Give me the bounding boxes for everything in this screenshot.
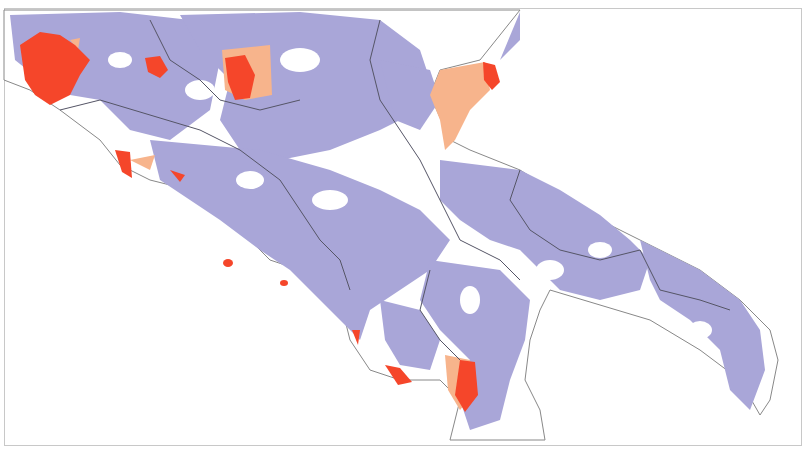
choropleth-map: [0, 0, 807, 450]
ponza-islands: [223, 259, 233, 267]
ischia-capri: [280, 280, 288, 286]
circeo-coast: [115, 150, 132, 178]
